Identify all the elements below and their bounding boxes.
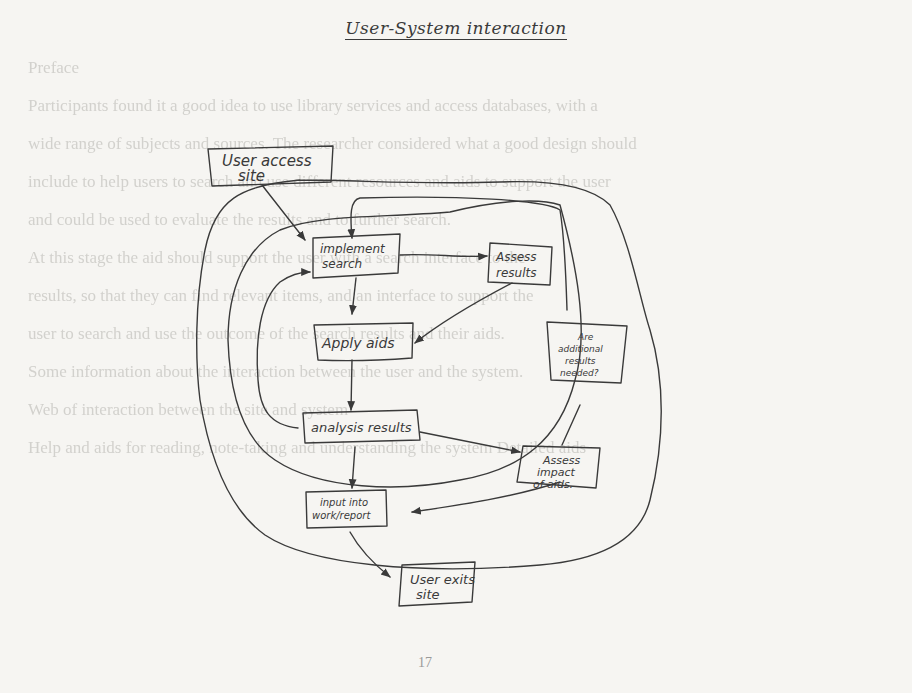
inner-loop — [257, 272, 310, 428]
node-additional-results-line1: Are — [577, 332, 594, 342]
edge-analysis-input — [352, 447, 355, 488]
node-analysis-results-line1: analysis results — [311, 420, 412, 435]
node-implement-search-line2: search — [322, 257, 362, 271]
edge-search-apply — [352, 278, 356, 314]
node-apply-aids-line1: Apply aids — [321, 335, 395, 351]
node-additional-results-line4: needed? — [560, 368, 599, 378]
node-implement-search-line1: implement — [320, 242, 386, 256]
middle-loop — [228, 201, 581, 487]
node-input-work-line2: work/report — [312, 510, 371, 521]
node-assess-results-line1: Assess — [495, 250, 537, 264]
edge-input-exit — [350, 532, 390, 577]
node-user-exits-site-line2: site — [416, 587, 439, 602]
edge-assess-apply — [415, 283, 512, 343]
node-user-access-site-line2: site — [238, 167, 265, 185]
edge-apply-analysis — [351, 360, 352, 410]
scanned-page: Preface Participants found it a good ide… — [0, 0, 912, 693]
edge-search-assess — [400, 255, 487, 257]
flowchart: User access site implement search Assess… — [0, 0, 912, 693]
node-box-input-work — [306, 490, 387, 528]
node-assess-results-line2: results — [496, 266, 536, 280]
node-user-access-site-line1: User access — [222, 152, 312, 170]
node-assess-impact-line3: of aids. — [533, 478, 573, 491]
node-input-work-line1: input into — [320, 497, 368, 508]
edge-access-search — [262, 185, 305, 240]
edge-analysis-impact — [420, 432, 520, 452]
node-user-exits-site-line1: User exits — [410, 572, 475, 587]
edge-impact-additional — [562, 405, 580, 445]
node-box-implement-search — [313, 234, 400, 278]
page-number: 17 — [395, 655, 455, 671]
node-additional-results-line3: results — [565, 356, 596, 366]
node-additional-results-line2: additional — [558, 344, 603, 354]
